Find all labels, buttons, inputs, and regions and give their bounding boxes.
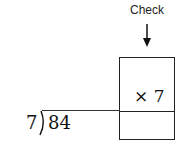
divisor: 7: [26, 112, 37, 133]
product-line: [120, 111, 174, 112]
division-bracket-icon: [38, 110, 46, 136]
dividend: 84: [48, 112, 71, 133]
check-box: × 7: [119, 57, 175, 140]
division-bar: [42, 110, 120, 111]
down-arrow-icon: [142, 24, 152, 48]
multiplier-text: × 7: [134, 86, 164, 106]
check-label: Check: [130, 3, 164, 17]
